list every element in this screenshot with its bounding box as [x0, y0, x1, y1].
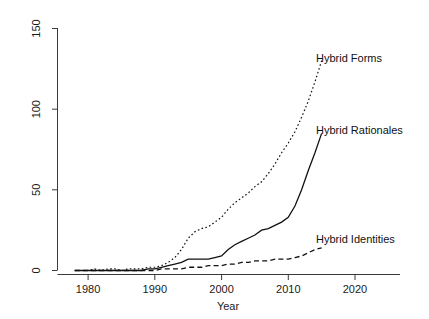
- y-axis-ticks: [52, 29, 58, 271]
- series-label-hybrid-forms: Hybrid Forms: [316, 52, 383, 64]
- x-axis-title: Year: [217, 300, 240, 312]
- series-line-hybrid-forms: [75, 61, 322, 271]
- y-tick-label-50: 50: [30, 184, 42, 196]
- series-label-hybrid-identities: Hybrid Identities: [316, 233, 395, 245]
- y-tick-label-150: 150: [30, 19, 42, 37]
- x-tick-label-1990: 1990: [143, 283, 167, 295]
- x-tick-label-2010: 2010: [276, 283, 300, 295]
- series-line-hybrid-rationales: [75, 133, 322, 270]
- x-tick-label-2000: 2000: [209, 283, 233, 295]
- x-axis-ticks: [88, 275, 355, 281]
- x-tick-label-2020: 2020: [343, 283, 367, 295]
- chart-container: 150 100 50 0 1980 1990 2000 2010 2020 Ye…: [0, 0, 429, 319]
- x-tick-label-1980: 1980: [76, 283, 100, 295]
- y-tick-label-100: 100: [30, 100, 42, 118]
- series-label-hybrid-rationales: Hybrid Rationales: [316, 124, 403, 136]
- line-chart: 150 100 50 0 1980 1990 2000 2010 2020 Ye…: [0, 0, 429, 319]
- y-tick-label-0: 0: [30, 267, 42, 273]
